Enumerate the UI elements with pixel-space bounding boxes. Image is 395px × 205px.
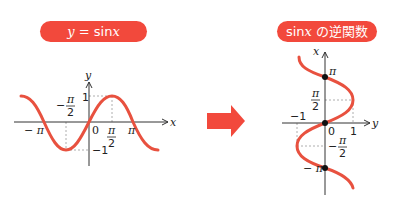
tick-pi: π <box>328 65 337 78</box>
tick-neg-half-pi-den: 2 <box>67 106 74 119</box>
tick-half-pi-den: 2 <box>108 137 115 150</box>
diagram-canvas: x y 1 −1 0 − π π − π 2 π 2 x y π <box>0 0 395 205</box>
right-arrow-icon <box>207 105 245 137</box>
tick-one: 1 <box>82 91 89 104</box>
tick-neg-half-pi-sign: − <box>56 99 65 112</box>
tick-neg-half-pi-num: π <box>338 134 347 147</box>
right-graph: x y π π 2 −1 0 1 − π 2 − π <box>282 45 379 195</box>
tick-neg-pi: − π <box>303 162 324 175</box>
tick-half-pi-num: π <box>311 87 320 100</box>
tick-zero: 0 <box>328 125 335 138</box>
point-pi <box>322 74 328 80</box>
vertical-axis-label: x <box>313 45 320 58</box>
tick-half-pi-num: π <box>107 124 116 137</box>
x-axis-label: x <box>170 116 177 129</box>
tick-pi: π <box>127 124 136 137</box>
tick-neg-half-pi-sign: − <box>328 140 337 153</box>
tick-neg-half-pi-num: π <box>66 93 75 106</box>
tick-neg-one: −1 <box>92 144 108 157</box>
tick-one: 1 <box>350 125 357 138</box>
tick-half-pi-den: 2 <box>312 100 319 113</box>
tick-zero: 0 <box>92 124 99 137</box>
tick-neg-half-pi-den: 2 <box>339 147 346 160</box>
left-graph: x y 1 −1 0 − π π − π 2 π 2 <box>14 69 177 166</box>
tick-neg-pi: − π <box>24 124 45 137</box>
horizontal-axis-label: y <box>371 117 379 130</box>
y-axis-label: y <box>84 69 92 82</box>
tick-neg-one: −1 <box>290 110 306 123</box>
